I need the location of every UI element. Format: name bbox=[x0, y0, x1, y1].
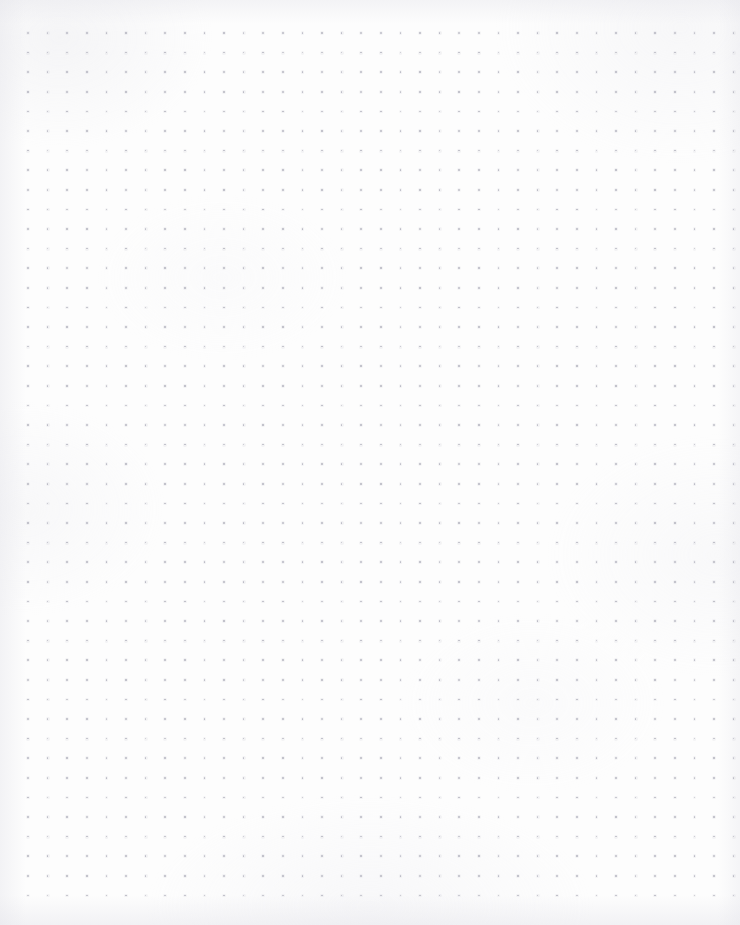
paper-background bbox=[0, 0, 740, 925]
dot-grid-page: Dot Grid Notebook Page bbox=[0, 0, 740, 925]
